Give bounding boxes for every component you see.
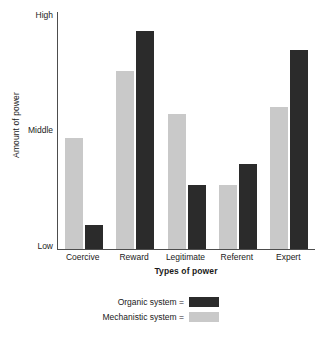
legend-swatch-organic <box>189 297 219 307</box>
plot-area <box>57 12 315 250</box>
bar-organic-coercive <box>85 225 103 249</box>
x-tick-label-expert: Expert <box>255 252 322 263</box>
bar-mechanistic-coercive <box>65 138 83 249</box>
bar-mechanistic-reward <box>116 71 134 249</box>
y-tick-label-low: Low <box>9 242 53 251</box>
x-axis-line <box>57 249 315 250</box>
legend-item-mechanistic: Mechanistic system = <box>60 310 270 323</box>
chart-legend: Organic system = Mechanistic system = <box>60 295 270 325</box>
bar-mechanistic-referent <box>219 185 237 249</box>
x-axis-tick-labels: CoerciveRewardLegitimateReferentExpert <box>57 252 319 266</box>
legend-swatch-mechanistic <box>189 312 219 322</box>
bar-organic-referent <box>239 164 257 249</box>
bar-mechanistic-expert <box>270 107 288 249</box>
y-axis-tick-labels: High Middle Low <box>9 0 53 338</box>
bar-organic-expert <box>290 50 308 249</box>
y-tick-label-middle: Middle <box>9 126 53 135</box>
bars-layer <box>58 12 315 249</box>
x-axis-title: Types of power <box>57 266 315 276</box>
bar-mechanistic-legitimate <box>168 114 186 249</box>
bar-organic-reward <box>136 31 154 249</box>
y-tick-label-high: High <box>9 11 53 20</box>
legend-item-organic: Organic system = <box>60 295 270 308</box>
legend-label-mechanistic: Mechanistic system = <box>60 312 189 322</box>
legend-label-organic: Organic system = <box>60 297 189 307</box>
bar-chart: Amount of power High Middle Low Coercive… <box>0 0 322 338</box>
bar-organic-legitimate <box>188 185 206 249</box>
